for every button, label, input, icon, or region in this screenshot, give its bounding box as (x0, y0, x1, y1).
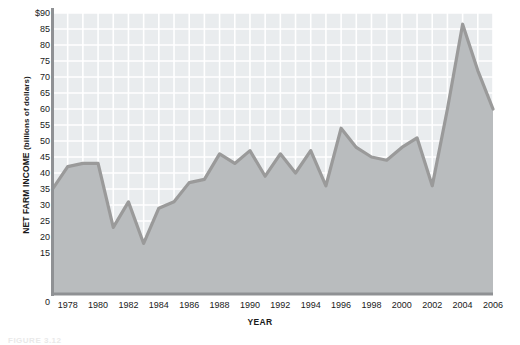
chart-plot-area (0, 0, 520, 345)
chart-figure: $908580757065605550454035302520150 NET F… (0, 0, 520, 345)
y-axis-tick-label: 0 (10, 298, 50, 307)
y-axis-title-main: NET FARM INCOME (21, 152, 31, 233)
y-axis-tick-label: 85 (10, 25, 50, 34)
figure-caption: FIGURE 3.12 (8, 336, 62, 345)
x-axis-title: YEAR (0, 317, 520, 327)
y-axis-tick-label: $90 (10, 9, 50, 18)
y-axis-title: NET FARM INCOME (billions of dollars) (21, 45, 31, 265)
x-axis-tick-label: 2006 (473, 300, 513, 310)
y-axis-title-sub: (billions of dollars) (22, 76, 31, 150)
